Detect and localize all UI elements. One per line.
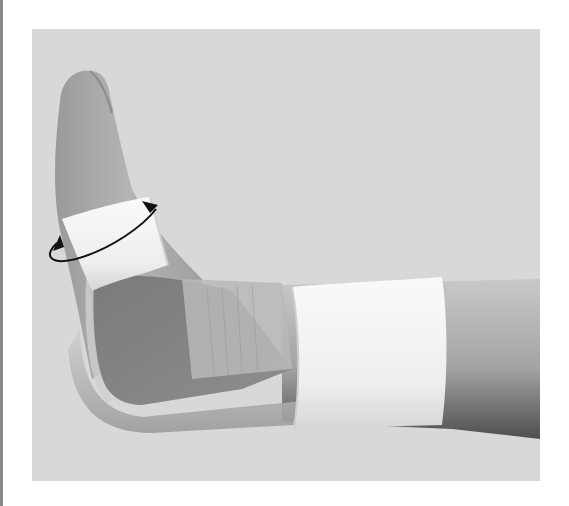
- ankle-area: [182, 279, 292, 379]
- calf-tape: [292, 277, 447, 429]
- leg-splint-photo: Lower leg and foot with a thermoplastic …: [32, 29, 540, 481]
- left-edge-bar: [0, 0, 3, 506]
